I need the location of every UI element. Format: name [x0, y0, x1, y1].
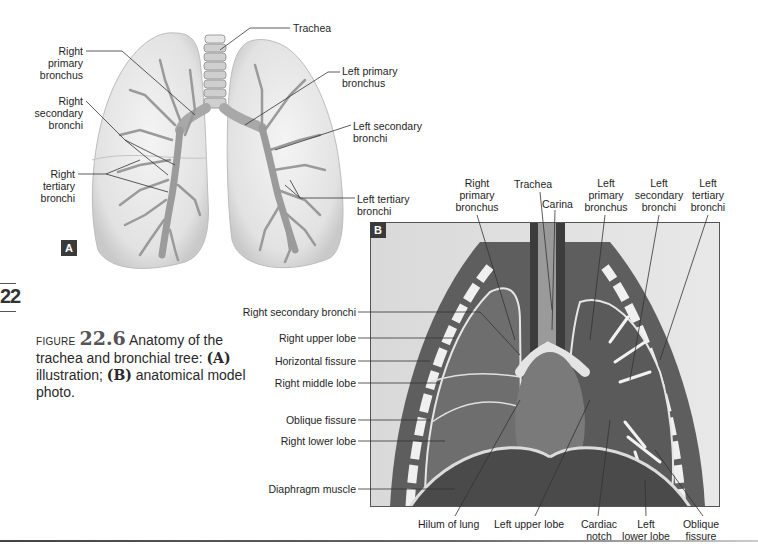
label-carina: Carina	[542, 198, 573, 210]
label-right-secondary-bronchi-a: Right secondary bronchi	[25, 95, 83, 131]
label-oblique-fissure-right: Oblique fissure	[286, 414, 356, 426]
label-right-lower-lobe: Right lower lobe	[281, 435, 356, 447]
label-trachea-a: Trachea	[293, 22, 331, 34]
label-diaphragm-muscle: Diaphragm muscle	[268, 483, 356, 495]
label-left-tertiary-bronchi-b: Left tertiary bronchi	[688, 177, 728, 213]
label-left-primary-bronchus-b: Left primary bronchus	[582, 177, 630, 213]
panel-b-badge: B	[370, 222, 386, 238]
label-horizontal-fissure: Horizontal fissure	[275, 355, 356, 367]
label-right-primary-bronchus-b: Right primary bronchus	[453, 177, 501, 213]
anatomical-model-photo	[370, 222, 720, 507]
label-oblique-fissure-left: Oblique fissure	[680, 518, 722, 542]
figure-number: 22.6	[79, 327, 125, 349]
label-left-secondary-bronchi-a: Left secondary bronchi	[353, 120, 422, 144]
label-right-primary-bronchus-a: Right primary bronchus	[30, 45, 83, 81]
label-hilum-of-lung: Hilum of lung	[418, 518, 479, 530]
label-right-tertiary-bronchi-a: Right tertiary bronchi	[30, 168, 75, 204]
chapter-rule-top	[0, 283, 16, 284]
label-trachea-b: Trachea	[514, 178, 552, 190]
lung-illustration	[80, 25, 360, 275]
page-bottom-rule	[0, 540, 758, 542]
label-left-secondary-bronchi-b: Left secondary bronchi	[634, 177, 684, 213]
chapter-rule-bottom	[0, 311, 16, 312]
chapter-number: 22	[0, 285, 16, 308]
label-right-secondary-bronchi-b: Right secondary bronchi	[243, 306, 356, 318]
label-cardiac-notch: Cardiac notch	[576, 518, 622, 542]
figure-word: FIGURE	[36, 336, 76, 347]
label-left-lower-lobe: Left lower lobe	[620, 518, 672, 542]
panel-a-badge: A	[61, 240, 77, 256]
figure-caption: FIGURE 22.6 Anatomy of the trachea and b…	[36, 330, 246, 401]
label-left-upper-lobe: Left upper lobe	[494, 518, 564, 530]
label-left-tertiary-bronchi-a: Left tertiary bronchi	[357, 193, 410, 217]
label-left-primary-bronchus-a: Left primary bronchus	[342, 65, 397, 89]
label-right-middle-lobe: Right middle lobe	[275, 377, 356, 389]
label-right-upper-lobe: Right upper lobe	[279, 332, 356, 344]
